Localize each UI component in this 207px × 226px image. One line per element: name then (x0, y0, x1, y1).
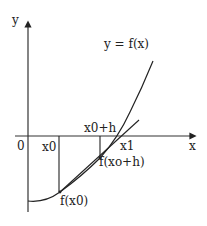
function-title: y = f(x) (104, 38, 149, 50)
x0-label: x0 (42, 141, 56, 153)
x-axis-label: x (189, 140, 196, 152)
x1-label: x1 (120, 140, 134, 152)
diagram-graphics (0, 0, 207, 226)
f-x0h-label: f(xo+h) (99, 156, 145, 168)
function-diagram: y x 0 y = f(x) x0 x0+h x1 f(xo+h) f(x0) (0, 0, 207, 226)
point-f-x0 (59, 191, 62, 194)
x0h-label: x0+h (84, 122, 116, 134)
y-axis-label: y (12, 14, 19, 26)
f-x0-label: f(x0) (60, 195, 88, 207)
origin-label: 0 (17, 140, 25, 152)
